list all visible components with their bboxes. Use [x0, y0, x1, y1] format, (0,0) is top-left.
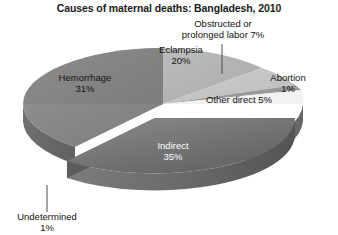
label-other-direct: Other direct 5% [206, 94, 272, 105]
label-hemorrhage-name: Hemorrhage [59, 72, 112, 83]
label-indirect-name: Indirect [157, 140, 188, 151]
label-undetermined: Undetermined 1% [17, 211, 77, 233]
label-indirect: Indirect 35% [157, 140, 188, 162]
label-abortion: Abortion 1% [270, 72, 305, 94]
label-indirect-value: 35% [157, 151, 188, 162]
label-undetermined-line1: Undetermined [17, 211, 77, 222]
label-hemorrhage: Hemorrhage 31% [59, 72, 112, 94]
pie-chart-graphic [0, 0, 338, 235]
label-undetermined-line2: 1% [17, 222, 77, 233]
label-other-direct-line1: Other direct 5% [206, 94, 272, 105]
label-eclampsia-value: 20% [159, 55, 203, 66]
label-obstructed-labor-line2: prolonged labor 7% [182, 29, 264, 40]
label-obstructed-labor-line1: Obstructed or [194, 18, 252, 29]
label-hemorrhage-value: 31% [59, 83, 112, 94]
label-abortion-line2: 1% [270, 83, 305, 94]
label-eclampsia: Eclampsia 20% [159, 44, 203, 66]
label-abortion-line1: Abortion [270, 72, 305, 83]
pie-chart-figure: Causes of maternal deaths: Bangladesh, 2… [0, 0, 338, 235]
label-eclampsia-name: Eclampsia [159, 44, 203, 55]
label-obstructed-labor: Obstructed or prolonged labor 7% [182, 18, 264, 40]
